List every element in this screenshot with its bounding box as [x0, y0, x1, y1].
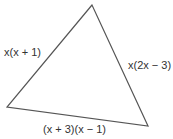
triangle	[7, 5, 148, 126]
side-label-left: x(x + 1)	[4, 47, 41, 58]
side-label-bottom-text: (x + 3)(x − 1)	[43, 123, 106, 135]
side-label-left-text: x(x + 1)	[4, 46, 41, 58]
side-label-right: x(2x − 3)	[128, 60, 171, 71]
side-label-bottom: (x + 3)(x − 1)	[43, 124, 106, 135]
side-label-right-text: x(2x − 3)	[128, 59, 171, 71]
